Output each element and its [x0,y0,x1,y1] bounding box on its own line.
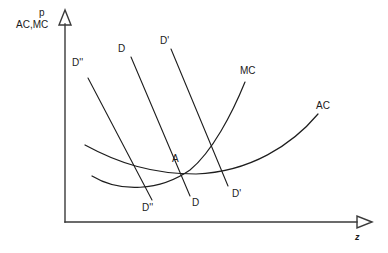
label-marginal-cost: MC [240,65,256,76]
y-axis-label-bottom: AC,MC [16,19,48,30]
vertical-axis [59,10,71,222]
diagram-canvas: p AC,MC z D'' D'' D D D' D' MC AC A [0,0,388,253]
demand-curve-d-prime [171,49,228,186]
label-average-cost: AC [316,100,330,111]
demand-curve-d-double-prime [88,78,152,200]
vertical-axis-arrow-icon [59,10,71,25]
label-d-top: D [118,43,125,54]
label-point-a: A [172,153,179,164]
label-d-prime-top: D' [160,35,169,46]
economics-diagram: p AC,MC z D'' D'' D D D' D' MC AC A [0,0,388,253]
label-d-bottom: D [192,197,199,208]
label-d-double-prime-top: D'' [72,57,83,68]
horizontal-axis [65,216,372,228]
y-axis-label-top: p [39,7,45,18]
x-axis-label: z [354,232,360,242]
horizontal-axis-arrow-icon [357,216,372,228]
label-d-double-prime-bottom: D'' [142,202,153,213]
label-d-prime-bottom: D' [232,188,241,199]
